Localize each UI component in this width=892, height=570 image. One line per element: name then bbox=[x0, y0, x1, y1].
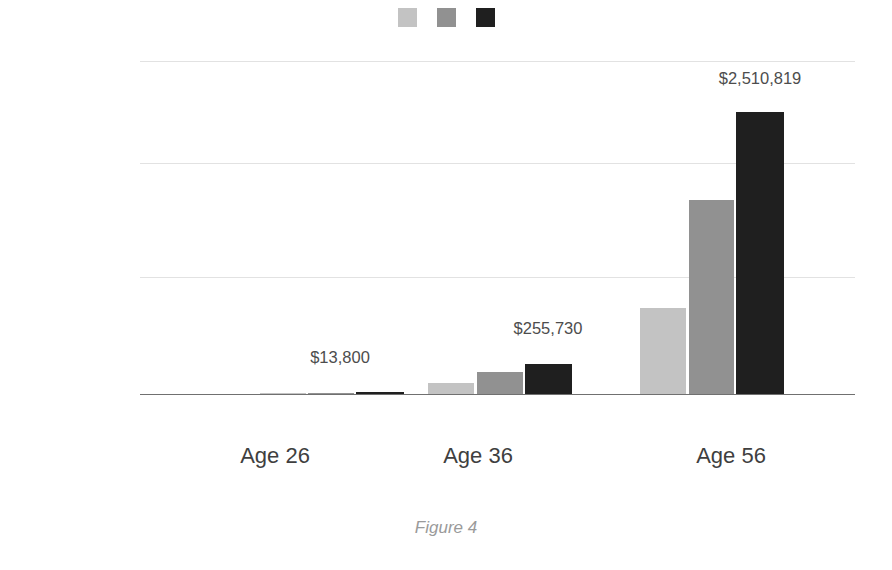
bar-age-36-series-1[interactable] bbox=[428, 383, 474, 394]
bar-age-56-series-2[interactable] bbox=[689, 200, 734, 394]
figure-container: $3,000,000 $2,000,000 $1,000,000 $0 $13,… bbox=[0, 0, 892, 570]
bar-age-36-series-2[interactable] bbox=[477, 372, 523, 394]
x-axis-baseline bbox=[140, 394, 855, 395]
legend-item-series-1[interactable] bbox=[398, 8, 417, 27]
legend-swatch-icon-series-2 bbox=[437, 8, 456, 27]
bar-age-26-series-2[interactable] bbox=[308, 393, 354, 394]
bar-age-56-series-1[interactable] bbox=[640, 308, 686, 394]
legend-item-series-2[interactable] bbox=[437, 8, 456, 27]
x-tick-label-age-36: Age 36 bbox=[443, 443, 513, 469]
value-label-age-26: $13,800 bbox=[310, 349, 370, 366]
bars-layer bbox=[140, 61, 855, 394]
x-tick-label-age-56: Age 56 bbox=[696, 443, 766, 469]
legend-item-series-3[interactable] bbox=[476, 8, 495, 27]
bar-age-36-series-3[interactable] bbox=[525, 364, 572, 394]
value-label-age-36: $255,730 bbox=[514, 320, 583, 337]
bar-age-56-series-3[interactable] bbox=[736, 112, 784, 394]
x-tick-label-age-26: Age 26 bbox=[240, 443, 310, 469]
legend-swatch-icon-series-3 bbox=[476, 8, 495, 27]
x-axis: Age 26 Age 36 Age 56 bbox=[140, 443, 855, 477]
bar-age-26-series-1[interactable] bbox=[260, 393, 306, 394]
value-label-age-56: $2,510,819 bbox=[719, 70, 802, 87]
plot-area: $13,800 $255,730 $2,510,819 bbox=[140, 61, 855, 394]
chart-legend bbox=[0, 6, 892, 28]
legend-swatch-icon-series-1 bbox=[398, 8, 417, 27]
bar-age-26-series-3[interactable] bbox=[356, 392, 404, 394]
figure-caption: Figure 4 bbox=[0, 518, 892, 538]
